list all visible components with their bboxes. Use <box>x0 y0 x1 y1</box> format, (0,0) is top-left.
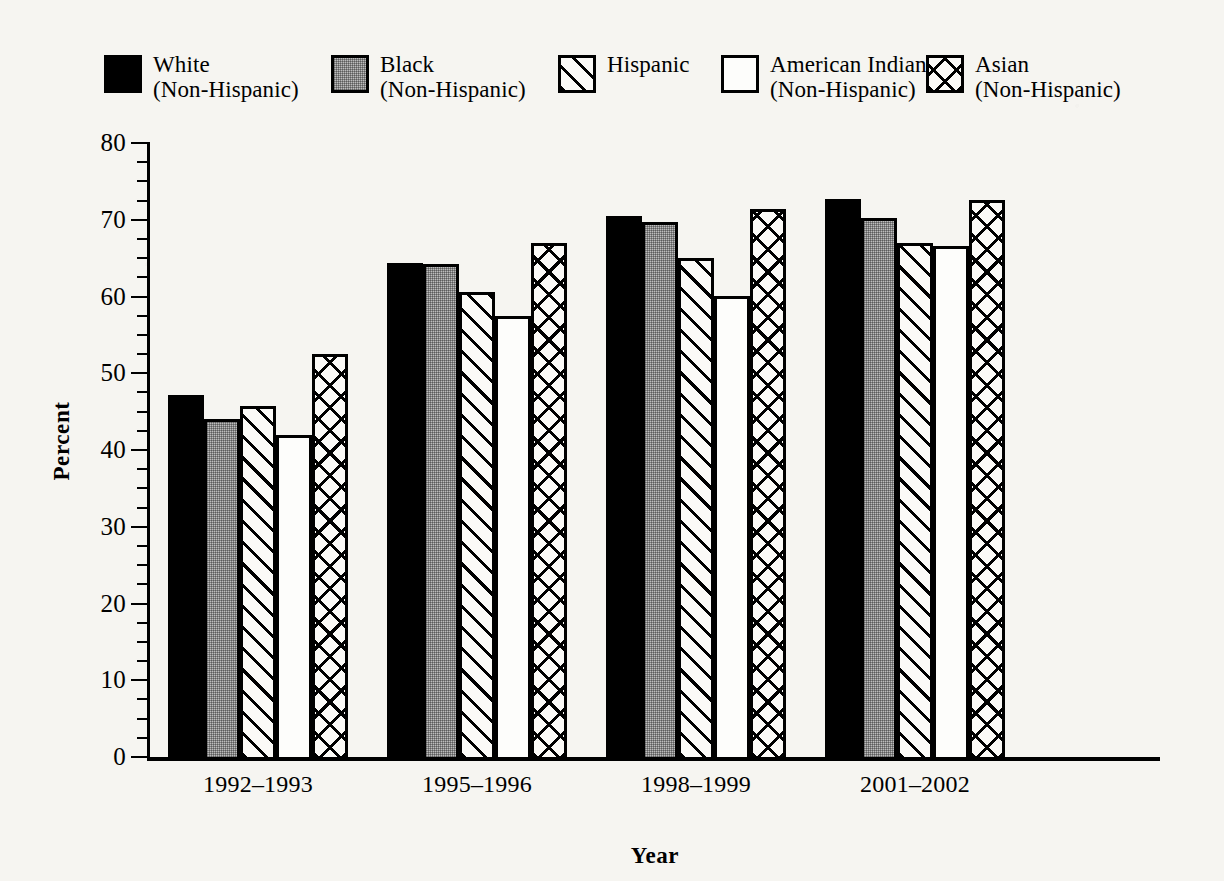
legend-label-white: White(Non-Hispanic) <box>153 52 299 102</box>
y-tick-major <box>131 603 148 605</box>
y-tick-major <box>131 372 148 374</box>
legend-label-black: Black(Non-Hispanic) <box>380 52 526 102</box>
legend-label-american-indian-line2: (Non-Hispanic) <box>770 77 927 102</box>
legend-label-asian-line2: (Non-Hispanic) <box>975 77 1121 102</box>
y-tick-minor <box>137 200 148 202</box>
x-tick-label: 1992–1993 <box>148 771 368 798</box>
y-tick-major <box>131 756 148 758</box>
legend-label-hispanic-line1: Hispanic <box>607 52 690 77</box>
y-tick-major <box>131 526 148 528</box>
bar-white <box>825 199 861 757</box>
bar-hispanic <box>678 258 714 757</box>
y-tick-minor <box>137 411 148 413</box>
legend-item-asian: Asian(Non-Hispanic) <box>926 52 1121 102</box>
y-tick-minor <box>137 718 148 720</box>
y-tick-minor <box>137 391 148 393</box>
bar-black <box>204 419 240 757</box>
legend-label-asian: Asian(Non-Hispanic) <box>975 52 1121 102</box>
legend-label-american-indian-line1: American Indian <box>770 52 927 77</box>
bar-black <box>861 218 897 757</box>
bar-group <box>825 143 1005 757</box>
chart-legend: White(Non-Hispanic) Black(Non-Hispanic) … <box>104 52 1144 114</box>
y-tick-major <box>131 679 148 681</box>
bar-asian <box>312 354 348 757</box>
legend-item-hispanic: Hispanic <box>558 52 690 93</box>
y-tick-minor <box>137 698 148 700</box>
bar-black <box>642 222 678 757</box>
legend-swatch-solid-black-icon <box>104 55 142 93</box>
y-tick-label: 80 <box>56 130 126 155</box>
legend-swatch-gray-stipple-icon <box>331 55 369 93</box>
bar-chart-figure: White(Non-Hispanic) Black(Non-Hispanic) … <box>0 0 1224 881</box>
legend-label-white-line2: (Non-Hispanic) <box>153 77 299 102</box>
y-tick-major <box>131 449 148 451</box>
legend-label-hispanic: Hispanic <box>607 52 690 77</box>
legend-item-black: Black(Non-Hispanic) <box>331 52 526 102</box>
y-tick-minor <box>137 468 148 470</box>
bar-hispanic <box>459 292 495 757</box>
y-tick-minor <box>137 257 148 259</box>
bar-group-bars <box>387 143 567 757</box>
bar-group-bars <box>168 143 348 757</box>
x-tick-label: 2001–2002 <box>805 771 1025 798</box>
legend-label-black-line1: Black <box>380 52 434 77</box>
bar-black <box>423 264 459 757</box>
bar-asian <box>531 243 567 757</box>
y-tick-minor <box>137 487 148 489</box>
y-tick-minor <box>137 507 148 509</box>
y-tick-major <box>131 142 148 144</box>
bar-american-indian <box>495 316 531 757</box>
bar-group-bars <box>606 143 786 757</box>
y-tick-label: 30 <box>56 514 126 539</box>
bar-american-indian <box>933 246 969 757</box>
y-axis-title: Percent <box>49 401 75 480</box>
y-tick-minor <box>137 334 148 336</box>
bar-group <box>168 143 348 757</box>
x-axis-line <box>147 757 1160 761</box>
y-tick-minor <box>137 276 148 278</box>
y-tick-minor <box>137 315 148 317</box>
bar-asian <box>969 200 1005 757</box>
y-tick-minor <box>137 430 148 432</box>
legend-label-black-line2: (Non-Hispanic) <box>380 77 526 102</box>
y-tick-minor <box>137 161 148 163</box>
bar-american-indian <box>276 435 312 757</box>
legend-swatch-cross-hatch-icon <box>926 55 964 93</box>
bar-group-bars <box>825 143 1005 757</box>
legend-item-white: White(Non-Hispanic) <box>104 52 299 102</box>
y-tick-minor <box>137 622 148 624</box>
y-tick-minor <box>137 737 148 739</box>
y-tick-label: 10 <box>56 667 126 692</box>
plot-area: 01020304050607080 Percent Year 1992–1993… <box>150 143 1160 757</box>
bar-white <box>168 395 204 757</box>
y-tick-major <box>131 296 148 298</box>
legend-label-white-line1: White <box>153 52 210 77</box>
bar-group <box>387 143 567 757</box>
bar-asian <box>750 209 786 757</box>
y-tick-label: 70 <box>56 207 126 232</box>
y-tick-minor <box>137 545 148 547</box>
y-tick-minor <box>137 583 148 585</box>
y-tick-label: 0 <box>56 744 126 769</box>
y-tick-label: 20 <box>56 591 126 616</box>
x-tick-label: 1995–1996 <box>367 771 587 798</box>
legend-swatch-empty-white-icon <box>721 55 759 93</box>
y-tick-major <box>131 219 148 221</box>
legend-item-american-indian: American Indian(Non-Hispanic) <box>721 52 927 102</box>
bar-american-indian <box>714 296 750 757</box>
bar-hispanic <box>897 243 933 757</box>
x-tick-label: 1998–1999 <box>586 771 806 798</box>
bar-group <box>606 143 786 757</box>
bar-white <box>387 263 423 757</box>
legend-swatch-diagonal-hatch-icon <box>558 55 596 93</box>
bar-hispanic <box>240 406 276 758</box>
y-tick-minor <box>137 238 148 240</box>
x-axis-title: Year <box>150 843 1160 869</box>
y-tick-minor <box>137 564 148 566</box>
y-tick-minor <box>137 353 148 355</box>
bar-white <box>606 216 642 757</box>
legend-label-american-indian: American Indian(Non-Hispanic) <box>770 52 927 102</box>
y-tick-label: 60 <box>56 284 126 309</box>
legend-label-asian-line1: Asian <box>975 52 1029 77</box>
y-tick-label: 50 <box>56 360 126 385</box>
